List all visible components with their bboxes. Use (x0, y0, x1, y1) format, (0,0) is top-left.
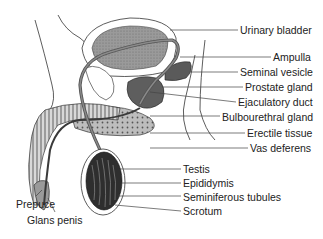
label-scrotum: Scrotum (183, 205, 222, 217)
label-ampulla: Ampulla (273, 51, 311, 63)
label-erectile-tissue: Erectile tissue (247, 127, 312, 139)
label-epididymis: Epididymis (183, 177, 234, 189)
label-urinary-bladder: Urinary bladder (240, 24, 312, 36)
label-vas-deferens: Vas deferens (250, 142, 311, 154)
label-seminal-vesicle: Seminal vesicle (240, 66, 313, 78)
label-glans-penis: Glans penis (27, 214, 82, 226)
label-bulbourethral-gland: Bulbourethral gland (222, 111, 313, 123)
label-ejaculatory-duct: Ejaculatory duct (238, 96, 313, 108)
label-seminiferous-tubules: Seminiferous tubules (183, 191, 281, 203)
label-prostate-gland: Prostate gland (245, 81, 313, 93)
label-testis: Testis (183, 163, 210, 175)
label-prepuce: Prepuce (16, 198, 55, 210)
